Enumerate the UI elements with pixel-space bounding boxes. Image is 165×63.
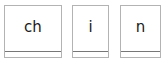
- grapheme-card-face: ch: [5, 6, 61, 51]
- grapheme-card-divider: [5, 51, 61, 57]
- grapheme-label-n: n: [136, 20, 146, 35]
- grapheme-card-divider: [121, 51, 160, 57]
- grapheme-card-strip: ch i n: [0, 0, 165, 63]
- grapheme-card-n[interactable]: n: [120, 5, 161, 58]
- grapheme-card-face: n: [121, 6, 160, 51]
- grapheme-label-i: i: [88, 20, 92, 35]
- grapheme-label-ch: ch: [24, 20, 42, 35]
- grapheme-card-face: i: [73, 6, 108, 51]
- grapheme-card-i[interactable]: i: [72, 5, 109, 58]
- grapheme-card-ch[interactable]: ch: [4, 5, 62, 58]
- grapheme-card-divider: [73, 51, 108, 57]
